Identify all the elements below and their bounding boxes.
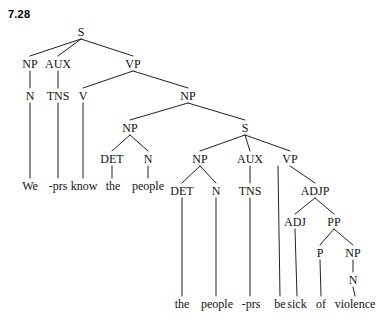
tree-node-v: V — [79, 89, 88, 103]
tree-leaf-word: know — [71, 179, 98, 193]
tree-node-n: N — [212, 184, 221, 198]
tree-node-s: S — [242, 121, 249, 135]
tree-node-layer: SNPAUXVPNTNSVNPNPSDETNNPAUXVPDETNTNSADJP… — [22, 25, 361, 287]
tree-edge — [130, 135, 148, 151]
tree-edge — [334, 229, 353, 245]
tree-leaf-word: sick — [287, 297, 306, 311]
tree-edge — [58, 39, 81, 56]
tree-node-n: N — [26, 89, 35, 103]
tree-node-p: P — [317, 246, 324, 260]
tree-leaf-edge — [278, 166, 280, 296]
tree-leaf-word: the — [175, 297, 190, 311]
tree-edge — [112, 135, 130, 151]
tree-node-pp: PP — [327, 215, 341, 229]
tree-edge — [290, 166, 315, 183]
tree-leaf-edge — [295, 229, 297, 296]
tree-node-aux: AUX — [237, 152, 263, 166]
tree-leaf-edge — [320, 260, 321, 296]
tree-leaf-word: violence — [335, 297, 376, 311]
tree-node-np: NP — [122, 121, 138, 135]
tree-edge — [188, 103, 245, 120]
tree-node-tns: TNS — [239, 184, 262, 198]
syntax-tree-diagram: SNPAUXVPNTNSVNPNPSDETNNPAUXVPDETNTNSADJP… — [0, 0, 386, 330]
tree-leaf-word: -prs — [242, 297, 261, 311]
tree-edge — [200, 135, 245, 151]
tree-edge — [81, 39, 133, 56]
tree-node-tns: TNS — [47, 89, 70, 103]
tree-node-np: NP — [22, 57, 38, 71]
tree-node-vp: VP — [282, 152, 298, 166]
tree-node-s: S — [78, 25, 85, 39]
tree-leaf-word: -prs — [49, 179, 68, 193]
tree-edge — [83, 71, 133, 88]
tree-node-det: DET — [170, 184, 194, 198]
tree-leaf-word: be — [274, 297, 285, 311]
tree-leaf-word: the — [106, 179, 121, 193]
tree-node-n: N — [144, 152, 153, 166]
tree-node-adj: ADJ — [284, 215, 306, 229]
tree-edge — [245, 135, 290, 151]
tree-node-n: N — [349, 273, 358, 287]
figure-page: 7.28 SNPAUXVPNTNSVNPNPSDETNNPAUXVPDETNTN… — [0, 0, 386, 330]
tree-edge — [315, 198, 334, 214]
tree-edge — [182, 166, 200, 183]
tree-edge — [245, 135, 250, 151]
tree-leaf-edge-layer — [30, 103, 355, 296]
tree-edge — [200, 166, 216, 183]
tree-leaf-edge — [353, 287, 355, 296]
tree-node-np: NP — [192, 152, 208, 166]
tree-leaf-word: people — [132, 179, 164, 193]
tree-edge — [320, 229, 334, 245]
tree-leaf-word: We — [22, 179, 38, 193]
tree-edge — [133, 71, 188, 88]
tree-node-det: DET — [100, 152, 124, 166]
tree-edge — [30, 39, 81, 56]
tree-edge — [130, 103, 188, 120]
tree-node-np: NP — [180, 89, 196, 103]
tree-node-aux: AUX — [45, 57, 71, 71]
tree-node-vp: VP — [125, 57, 141, 71]
tree-leaf-word: of — [316, 297, 326, 311]
tree-edge — [295, 198, 315, 214]
tree-leaf-layer: We-prsknowthepeoplethepeople-prsbesickof… — [22, 179, 375, 311]
tree-node-np: NP — [345, 246, 361, 260]
tree-leaf-word: people — [201, 297, 233, 311]
tree-node-adjp: ADJP — [301, 184, 330, 198]
